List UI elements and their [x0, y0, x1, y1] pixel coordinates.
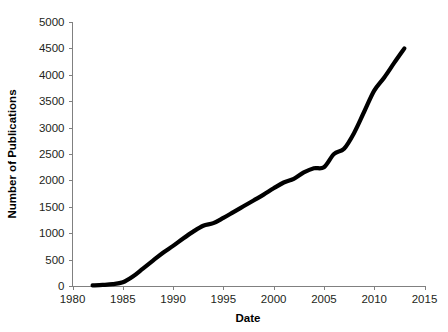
y-tick-label: 2000 [39, 174, 65, 186]
y-tick-label: 0 [58, 280, 64, 292]
x-tick-label: 1980 [60, 293, 86, 305]
chart-background [0, 0, 448, 332]
x-tick-label: 1985 [110, 293, 136, 305]
y-tick-label: 1500 [39, 201, 65, 213]
y-axis-title: Number of Publications [6, 89, 18, 218]
y-tick-label: 1000 [39, 227, 65, 239]
y-tick-label: 4500 [39, 42, 65, 54]
chart-figure: 0500100015002000250030003500400045005000… [0, 0, 448, 332]
y-tick-label: 500 [45, 254, 64, 266]
x-tick-label: 2000 [261, 293, 287, 305]
y-tick-label: 5000 [39, 16, 65, 28]
x-tick-label: 2010 [361, 293, 387, 305]
x-tick-label: 2015 [412, 293, 438, 305]
x-axis-title: Date [236, 312, 261, 324]
publications-line-chart: 0500100015002000250030003500400045005000… [0, 0, 448, 332]
x-tick-label: 2005 [311, 293, 337, 305]
x-tick-label: 1990 [160, 293, 186, 305]
y-tick-label: 2500 [39, 148, 65, 160]
y-tick-label: 3500 [39, 95, 65, 107]
y-tick-label: 3000 [39, 122, 65, 134]
x-tick-label: 1995 [211, 293, 237, 305]
y-tick-label: 4000 [39, 69, 65, 81]
